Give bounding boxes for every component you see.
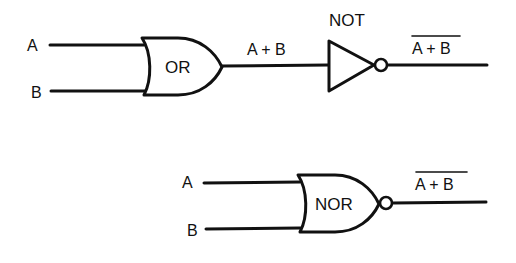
not-gate-icon — [329, 41, 374, 91]
bottom-input-b-wire — [206, 228, 300, 229]
bottom-output-label: A + B — [415, 177, 454, 193]
nor-bubble-icon — [380, 197, 392, 209]
top-input-a-label: A — [27, 38, 38, 54]
nor-gate-label: NOR — [315, 197, 353, 213]
intermediate-signal-label: A + B — [247, 42, 286, 58]
top-output-label: A + B — [412, 41, 451, 57]
not-gate-label: NOT — [329, 13, 365, 29]
top-input-b-label: B — [31, 85, 42, 101]
not-bubble-icon — [375, 59, 387, 71]
bottom-input-b-label: B — [187, 223, 198, 239]
or-output-wire — [222, 65, 328, 66]
bottom-input-a-wire — [204, 182, 300, 183]
bottom-input-a-label: A — [182, 175, 193, 191]
nor-output-wire — [393, 202, 486, 203]
or-gate-label: OR — [165, 60, 191, 76]
